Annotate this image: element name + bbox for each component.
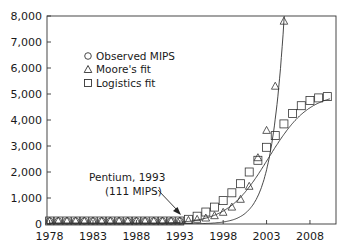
moore-point [263, 126, 271, 133]
moore-point [193, 215, 201, 222]
y-tick-label: 6,000 [11, 62, 43, 75]
mips-chart: 01,0002,0003,0004,0005,0006,0007,0008,00… [0, 0, 351, 249]
logistics-point [263, 143, 271, 151]
logistics-point [193, 212, 201, 220]
y-tick-label: 7,000 [11, 36, 43, 49]
moore-point [185, 216, 193, 223]
logistics-point [306, 97, 314, 105]
logistics-point [228, 189, 236, 197]
logistics-point [315, 94, 323, 102]
plot-frame [47, 16, 336, 224]
y-tick-label: 3,000 [11, 140, 43, 153]
logistics-point [210, 203, 218, 211]
legend-square-icon [85, 80, 92, 87]
data-markers [46, 17, 332, 225]
logistics-point [280, 120, 288, 128]
moore-point [237, 195, 245, 202]
legend-observed-label: Observed MIPS [96, 50, 175, 62]
moore-point [254, 154, 262, 161]
legend-circle-icon [85, 53, 92, 60]
y-tick-label: 1,000 [11, 192, 43, 205]
x-tick-label: 1983 [79, 230, 107, 243]
logistics-point [289, 110, 297, 118]
x-tick-label: 1993 [166, 230, 194, 243]
logistics-point [245, 168, 253, 176]
moore-point [271, 82, 279, 89]
logistics-point [297, 102, 305, 110]
y-tick-label: 2,000 [11, 166, 43, 179]
legend: Observed MIPS Moore's fit Logistics fit [84, 50, 175, 89]
y-tick-label: 8,000 [11, 10, 43, 23]
x-tick-label: 2008 [296, 230, 324, 243]
x-tick-label: 1988 [122, 230, 150, 243]
annotation-line1: Pentium, 1993 [89, 171, 165, 183]
y-tick-label: 5,000 [11, 88, 43, 101]
moore-fit-curve [50, 0, 288, 224]
arrowhead-icon [173, 207, 181, 215]
y-tick-label: 4,000 [11, 114, 43, 127]
legend-moore-label: Moore's fit [96, 63, 151, 75]
logistics-point [237, 180, 245, 188]
pentium-annotation: Pentium, 1993 (111 MIPS) [89, 171, 181, 215]
x-tick-label: 1998 [209, 230, 237, 243]
annotation-line2: (111 MIPS) [105, 185, 162, 197]
logistics-fit-curve [50, 99, 330, 224]
x-tick-label: 2003 [253, 230, 281, 243]
annotation-arrow-line [158, 190, 178, 211]
logistics-point [219, 197, 227, 205]
fit-curves [50, 0, 330, 224]
moore-point [228, 203, 236, 210]
legend-triangle-icon [84, 66, 92, 73]
axes: 01,0002,0003,0004,0005,0006,0007,0008,00… [11, 10, 337, 243]
legend-logistics-label: Logistics fit [96, 77, 156, 89]
x-tick-label: 1978 [36, 230, 64, 243]
